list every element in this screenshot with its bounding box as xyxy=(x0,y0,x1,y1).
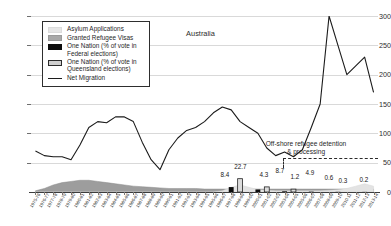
legend-label-one-nation-federal-2: Federal elections) xyxy=(67,50,118,57)
annotation-bracket-tick xyxy=(283,158,284,168)
legend-label-one-nation-queensland-2: Queensland elections) xyxy=(67,65,131,72)
bar-label-22-7: 22.7 xyxy=(234,163,246,170)
chart-container: 300 250 200 150 100 50 0 Australia 1975-… xyxy=(0,0,391,226)
bar-label-1-2: 1.2 xyxy=(291,173,300,180)
area-granted-refugee-visas xyxy=(35,180,373,192)
legend-label-net-migration: Net Migration xyxy=(67,74,105,81)
legend-swatch-bar-icon xyxy=(48,44,62,50)
bar-label-8-4: 8.4 xyxy=(221,171,230,178)
legend-item-asylum-applications: Asylum Applications xyxy=(47,25,145,33)
bar-label-4-9: 4.9 xyxy=(306,169,315,176)
legend-swatch-area-icon xyxy=(48,35,62,41)
legend-swatch-area-icon xyxy=(48,27,62,33)
bar-label-0-3: 0.3 xyxy=(339,177,348,184)
x-axis-labels: 1975-761976-771977-781978-791979-801980-… xyxy=(0,193,391,226)
legend-item-one-nation-federal: One Nation (% of vote inFederal election… xyxy=(47,42,145,57)
legend: Asylum Applications Granted Refugee Visa… xyxy=(42,21,150,87)
legend-swatch-line-icon xyxy=(48,75,62,81)
annotation-line-2: & processing xyxy=(232,148,380,156)
bar xyxy=(238,179,243,192)
bar-label-4-3: 4.3 xyxy=(260,171,269,178)
legend-label-granted-refugee-visas: Granted Refugee Visas xyxy=(67,34,133,41)
legend-item-one-nation-queensland: One Nation (% of vote inQueensland elect… xyxy=(47,58,145,73)
legend-item-granted-refugee-visas: Granted Refugee Visas xyxy=(47,34,145,42)
legend-swatch-outlined-bar-icon xyxy=(48,60,62,66)
legend-label-asylum-applications: Asylum Applications xyxy=(67,25,124,32)
annotation-line-1: Off-shore refugee detention xyxy=(232,140,380,148)
bar-label-0-2: 0.2 xyxy=(360,176,369,183)
legend-label-one-nation-federal-1: One Nation (% of vote in xyxy=(67,42,137,49)
legend-label-one-nation-queensland-1: One Nation (% of vote in xyxy=(67,58,137,65)
annotation-bracket xyxy=(283,158,378,159)
legend-item-net-migration: Net Migration xyxy=(47,74,145,82)
bar-label-0-6: 0.6 xyxy=(325,174,334,181)
